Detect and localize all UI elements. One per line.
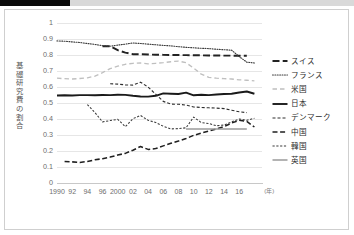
y-axis-tick-labels: 10.90.80.70.60.50.40.30.20.10 — [27, 23, 53, 183]
top-decoration-accent — [0, 0, 70, 6]
legend: スイスフランス米国日本デンマーク中国韓国英国 — [272, 54, 350, 172]
legend-line-swatch-icon — [272, 142, 288, 150]
legend-line-swatch-icon — [272, 100, 288, 108]
y-axis-tick: 0.7 — [29, 67, 53, 75]
legend-line-swatch-icon — [272, 71, 288, 79]
legend-item-label: スイス — [291, 57, 315, 66]
y-axis-tick: 1 — [29, 19, 53, 27]
series-line — [57, 61, 254, 81]
legend-item-1[interactable]: スイス — [272, 54, 350, 68]
x-axis-line — [57, 183, 263, 184]
legend-item-label: 中国 — [291, 128, 307, 137]
y-axis-tick: 0 — [29, 179, 53, 187]
x-axis-tick: 16 — [228, 187, 250, 196]
legend-line-swatch-icon — [272, 85, 288, 93]
series-line — [87, 105, 254, 129]
legend-item-label: 米国 — [291, 85, 307, 94]
legend-item-6[interactable]: 中国 — [272, 125, 350, 139]
legend-item-label: 韓国 — [291, 142, 307, 151]
y-axis-title: 基礎研究費の割合 — [13, 62, 25, 131]
series-line — [65, 120, 255, 162]
y-axis-tick: 0.8 — [29, 51, 53, 59]
chart-page: 基礎研究費の割合 10.90.80.70.60.50.40.30.20.10 1… — [0, 0, 354, 235]
legend-item-label: フランス — [291, 71, 323, 80]
legend-item-7[interactable]: 韓国 — [272, 139, 350, 153]
y-axis-tick: 0.2 — [29, 147, 53, 155]
legend-line-swatch-icon — [272, 128, 288, 136]
y-axis-tick: 0.6 — [29, 83, 53, 91]
x-axis-tick-labels: 199092949620000204060810121416(年) — [47, 187, 275, 199]
legend-line-swatch-icon — [272, 57, 288, 65]
plot-area — [57, 23, 262, 183]
legend-item-3[interactable]: 米国 — [272, 82, 350, 96]
y-axis-tick: 0.5 — [29, 99, 53, 107]
legend-item-8[interactable]: 英国 — [272, 153, 350, 167]
series-line — [110, 82, 247, 112]
y-axis-tick: 0.1 — [29, 163, 53, 171]
y-axis-tick: 0.9 — [29, 35, 53, 43]
legend-line-swatch-icon — [272, 156, 288, 164]
x-axis-unit-label: (年) — [264, 187, 274, 196]
legend-item-label: 日本 — [291, 99, 307, 108]
y-axis-tick: 0.4 — [29, 115, 53, 123]
y-axis-tick: 0.3 — [29, 131, 53, 139]
legend-item-label: 英国 — [291, 156, 307, 165]
series-line — [103, 46, 247, 56]
legend-item-label: デンマーク — [291, 113, 331, 122]
legend-item-5[interactable]: デンマーク — [272, 111, 350, 125]
series-lines — [57, 23, 262, 183]
legend-line-swatch-icon — [272, 114, 288, 122]
series-line — [57, 41, 254, 63]
top-decoration-bar — [0, 0, 354, 6]
legend-item-4[interactable]: 日本 — [272, 97, 350, 111]
legend-item-2[interactable]: フランス — [272, 68, 350, 82]
